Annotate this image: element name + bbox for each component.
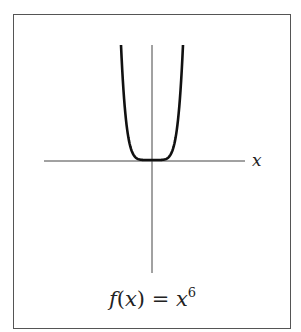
plot: x f(x) = x6: [0, 0, 301, 332]
x-axis-label: x: [252, 150, 262, 170]
function-caption: f(x) = x6: [107, 285, 196, 311]
